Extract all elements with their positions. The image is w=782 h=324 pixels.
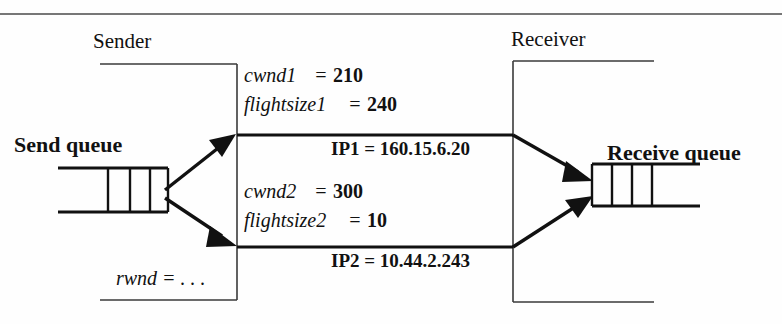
- receive-queue-label: Receive queue: [607, 140, 741, 165]
- sender-path1-arrow-shaft: [165, 145, 222, 190]
- path2-cwnd-value: 300: [333, 180, 363, 202]
- path2-flightsize-value: 10: [367, 209, 387, 231]
- path1-flightsize-equals: =: [348, 93, 362, 115]
- path1-flightsize-value: 240: [367, 93, 397, 115]
- receiver-path2-arrowhead: [565, 196, 593, 218]
- path2-params: cwnd2 = 300 flightsize2 = 10 IP2 = 10.44…: [244, 180, 470, 271]
- sender-path2-arrowhead: [206, 226, 237, 247]
- path2-flightsize-equals: =: [348, 209, 362, 231]
- send-queue-label: Send queue: [14, 132, 122, 157]
- path1-cwnd-equals: =: [314, 64, 328, 86]
- sender-title: Sender: [93, 29, 151, 53]
- send-queue-shape: [58, 168, 168, 212]
- path2-cwnd-equals: =: [314, 180, 328, 202]
- path2-cwnd-var: cwnd2: [244, 180, 296, 202]
- receive-queue-shape: [592, 164, 700, 206]
- receiver-title: Receiver: [511, 27, 586, 51]
- path1-params: cwnd1 = 210 flightsize1 = 240 IP1 = 160.…: [244, 64, 470, 159]
- path2-ip-label: IP2 = 10.44.2.243: [331, 250, 470, 271]
- receiver-path2-arrow: [513, 196, 593, 247]
- path1-flightsize-var: flightsize1: [244, 93, 326, 116]
- path2-flightsize-var: flightsize2: [244, 209, 326, 232]
- receiver-path1-arrow: [513, 135, 593, 182]
- path1-cwnd-var: cwnd1: [244, 64, 296, 86]
- receiver-path2-arrow-shaft: [513, 205, 578, 247]
- rwnd-label: rwnd = . . .: [116, 267, 206, 289]
- diagram-canvas: Sender Receiver Send queue Receive queue…: [0, 0, 782, 324]
- receiver-path1-arrowhead: [562, 161, 593, 182]
- path1-ip-label: IP1 = 160.15.6.20: [331, 138, 470, 159]
- path1-cwnd-value: 210: [333, 64, 363, 86]
- sender-path1-arrow: [165, 134, 236, 190]
- sender-path2-arrow: [165, 198, 237, 247]
- network-diagram: Sender Receiver Send queue Receive queue…: [0, 0, 782, 324]
